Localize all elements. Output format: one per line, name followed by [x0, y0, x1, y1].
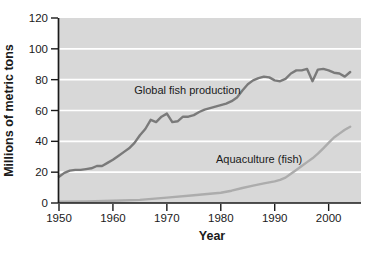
- x-tick-label-1960: 1960: [100, 212, 126, 224]
- y-tick-label-100: 100: [29, 43, 48, 55]
- y-axis-title: Millions of metric tons: [2, 44, 16, 177]
- fish-production-figure: 020406080100120195019601970198019902000M…: [0, 0, 377, 254]
- y-tick-label-80: 80: [35, 74, 48, 86]
- x-tick-label-2000: 2000: [316, 212, 342, 224]
- y-tick-label-0: 0: [42, 197, 48, 209]
- y-tick-label-20: 20: [35, 166, 48, 178]
- fish-production-line-chart: 020406080100120195019601970198019902000M…: [0, 0, 377, 254]
- series-label-aquaculture: Aquaculture (fish): [216, 153, 302, 165]
- y-tick-label-60: 60: [35, 105, 48, 117]
- x-tick-label-1990: 1990: [262, 212, 288, 224]
- series-label-global-fish-production: Global fish production: [134, 84, 240, 96]
- y-tick-label-40: 40: [35, 135, 48, 147]
- x-tick-label-1980: 1980: [208, 212, 234, 224]
- x-tick-label-1970: 1970: [154, 212, 180, 224]
- x-tick-label-1950: 1950: [46, 212, 72, 224]
- x-axis-title: Year: [199, 229, 226, 243]
- y-tick-label-120: 120: [29, 12, 48, 24]
